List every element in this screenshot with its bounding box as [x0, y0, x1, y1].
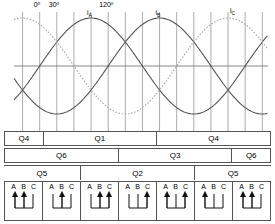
q-band-row-3: Q5Q2Q5 [4, 165, 271, 180]
switch-arrow-group [199, 191, 229, 213]
switch-state-cell: ABC [81, 182, 119, 220]
phase-header-c: C [221, 183, 227, 191]
phase-header-a: A [11, 183, 17, 191]
phase-a-label-sub: A [89, 12, 92, 18]
phase-header-row: ABC [49, 183, 75, 191]
phase-a-label: iA [87, 9, 92, 17]
q-band-cell: Q1 [44, 132, 158, 145]
angle-label-120: 120º [99, 1, 113, 9]
q-band-cell: Q5 [4, 166, 81, 180]
switch-state-cell: ABC [5, 182, 43, 220]
angle-label-0: 0º [34, 1, 40, 9]
waveform-svg [0, 0, 275, 132]
q-band-cell: Q4 [5, 132, 44, 145]
phase-header-c: C [31, 183, 37, 191]
phase-header-b: B [97, 183, 103, 191]
phase-header-row: ABC [87, 183, 113, 191]
q-band-cell: Q2 [81, 166, 196, 180]
q-band-label: Q6 [56, 151, 67, 160]
phase-header-row: ABC [239, 183, 265, 191]
phase-header-a: A [49, 183, 55, 191]
angle-label-30: 30º [49, 1, 59, 9]
phase-header-b: B [211, 183, 217, 191]
phase-header-b: B [249, 183, 255, 191]
q-band-row-2: Q6Q3Q6 [4, 148, 271, 163]
q-band-label: Q6 [246, 151, 257, 160]
phase-header-c: C [183, 183, 189, 191]
switch-arrow-group [85, 191, 115, 213]
phase-header-c: C [145, 183, 151, 191]
q-band-label: Q3 [170, 151, 181, 160]
switch-state-strip: ABCABCABCABCABCABCABC [4, 181, 271, 221]
q-band-label: Q2 [132, 169, 143, 178]
q-band-cell: Q5 [195, 166, 271, 180]
q-band-label: Q5 [37, 169, 48, 178]
q-band-cell: Q6 [5, 149, 119, 162]
switch-state-cell: ABC [43, 182, 81, 220]
q-band-label: Q4 [208, 134, 219, 143]
q-band-row-1: Q4Q1Q4 [4, 131, 271, 146]
q-band-label: Q1 [95, 134, 106, 143]
phase-header-row: ABC [11, 183, 37, 191]
phase-header-b: B [135, 183, 141, 191]
three-phase-waveform-figure: 0º 30º 120º iA iB iC Q4Q1Q4 Q6Q3Q6 Q5Q2Q… [0, 0, 275, 224]
q-band-cell: Q6 [232, 149, 270, 162]
phase-header-a: A [239, 183, 245, 191]
phase-b-label: iB [156, 9, 161, 17]
q-band-label: Q4 [18, 134, 29, 143]
q-band-label: Q5 [228, 169, 239, 178]
switch-arrow-group [9, 191, 39, 213]
switch-state-cell: ABC [157, 182, 195, 220]
switch-state-cell: ABC [195, 182, 233, 220]
phase-header-b: B [173, 183, 179, 191]
phase-c-label: iC [230, 7, 235, 15]
phase-header-b: B [21, 183, 27, 191]
switch-state-cell: ABC [233, 182, 270, 220]
switch-arrow-group [237, 191, 267, 213]
phase-header-row: ABC [201, 183, 227, 191]
phase-header-a: A [125, 183, 131, 191]
switch-state-cell: ABC [119, 182, 157, 220]
phase-header-a: A [87, 183, 93, 191]
phase-header-b: B [59, 183, 65, 191]
phase-header-c: C [69, 183, 75, 191]
q-band-cell: Q3 [119, 149, 233, 162]
phase-header-a: A [201, 183, 207, 191]
phase-c-label-sub: C [232, 10, 236, 16]
switch-arrow-group [47, 191, 77, 213]
phase-header-a: A [163, 183, 169, 191]
phase-header-c: C [259, 183, 265, 191]
phase-b-label-sub: B [157, 12, 160, 18]
waveform-plot: 0º 30º 120º iA iB iC [0, 0, 275, 132]
phase-header-row: ABC [163, 183, 189, 191]
q-band-cell: Q4 [157, 132, 270, 145]
switch-arrow-group [161, 191, 191, 213]
phase-header-row: ABC [125, 183, 151, 191]
switch-arrow-group [123, 191, 153, 213]
gridlines [23, 12, 263, 131]
phase-header-c: C [107, 183, 113, 191]
